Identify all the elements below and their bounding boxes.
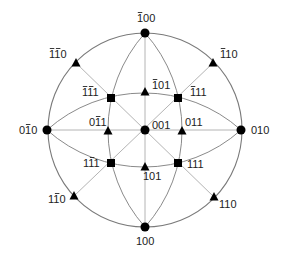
pole-label: 001 [152, 119, 170, 131]
pole-label-text: 110 [220, 48, 238, 60]
pole-label-text: 010 [19, 124, 37, 136]
pole-label-text: 101 [143, 170, 161, 182]
pole-label-text: 011 [185, 116, 203, 128]
pole-label-text: 111 [82, 86, 99, 98]
pole-label-text: 100 [137, 12, 155, 24]
pole-label-text: 111 [187, 158, 204, 170]
circle-marker-icon [141, 223, 150, 232]
pole-label: 111 [190, 86, 207, 98]
pole-label: 110 [220, 48, 238, 60]
pole-label: 101 [143, 170, 161, 182]
circle-marker-icon [141, 126, 150, 135]
circle-marker-icon [237, 126, 246, 135]
pole-label: 010 [251, 124, 269, 136]
stereographic-projection-diagram: 1001000100100011101101101101011010110111… [0, 0, 282, 257]
pole-label: 010 [19, 124, 37, 136]
arc-upper [47, 93, 241, 130]
pole-label-text: 110 [49, 48, 67, 60]
pole-label: 110 [219, 198, 237, 210]
pole-label-text: 110 [48, 193, 66, 205]
pole-label: 110 [48, 193, 66, 205]
pole-label: 011 [89, 116, 107, 128]
pole-label-text: 001 [152, 119, 170, 131]
circle-marker-icon [43, 126, 52, 135]
pole-label: 111 [187, 158, 204, 170]
circle-marker-icon [141, 29, 150, 38]
arc-lower [47, 130, 241, 167]
pole-label-text: 011 [89, 116, 107, 128]
pole-label: 100 [137, 12, 155, 24]
triangle-marker-icon [141, 87, 150, 96]
triangle-marker-icon [209, 58, 218, 67]
pole-label-text: 101 [152, 79, 170, 91]
pole-label: 111 [83, 157, 100, 169]
square-marker-icon [107, 159, 115, 167]
pole-label-text: 110 [219, 198, 237, 210]
square-marker-icon [107, 94, 115, 102]
pole-label-text: 111 [83, 157, 100, 169]
pole-label-text: 010 [251, 124, 269, 136]
square-marker-icon [174, 159, 182, 167]
pole-label: 100 [136, 235, 154, 247]
pole-label: 110 [49, 48, 67, 60]
pole-label-text: 111 [190, 86, 207, 98]
square-marker-icon [174, 94, 182, 102]
pole-label: 011 [185, 116, 203, 128]
pole-label: 101 [152, 79, 170, 91]
pole-label-text: 100 [136, 235, 154, 247]
pole-label: 111 [82, 86, 99, 98]
